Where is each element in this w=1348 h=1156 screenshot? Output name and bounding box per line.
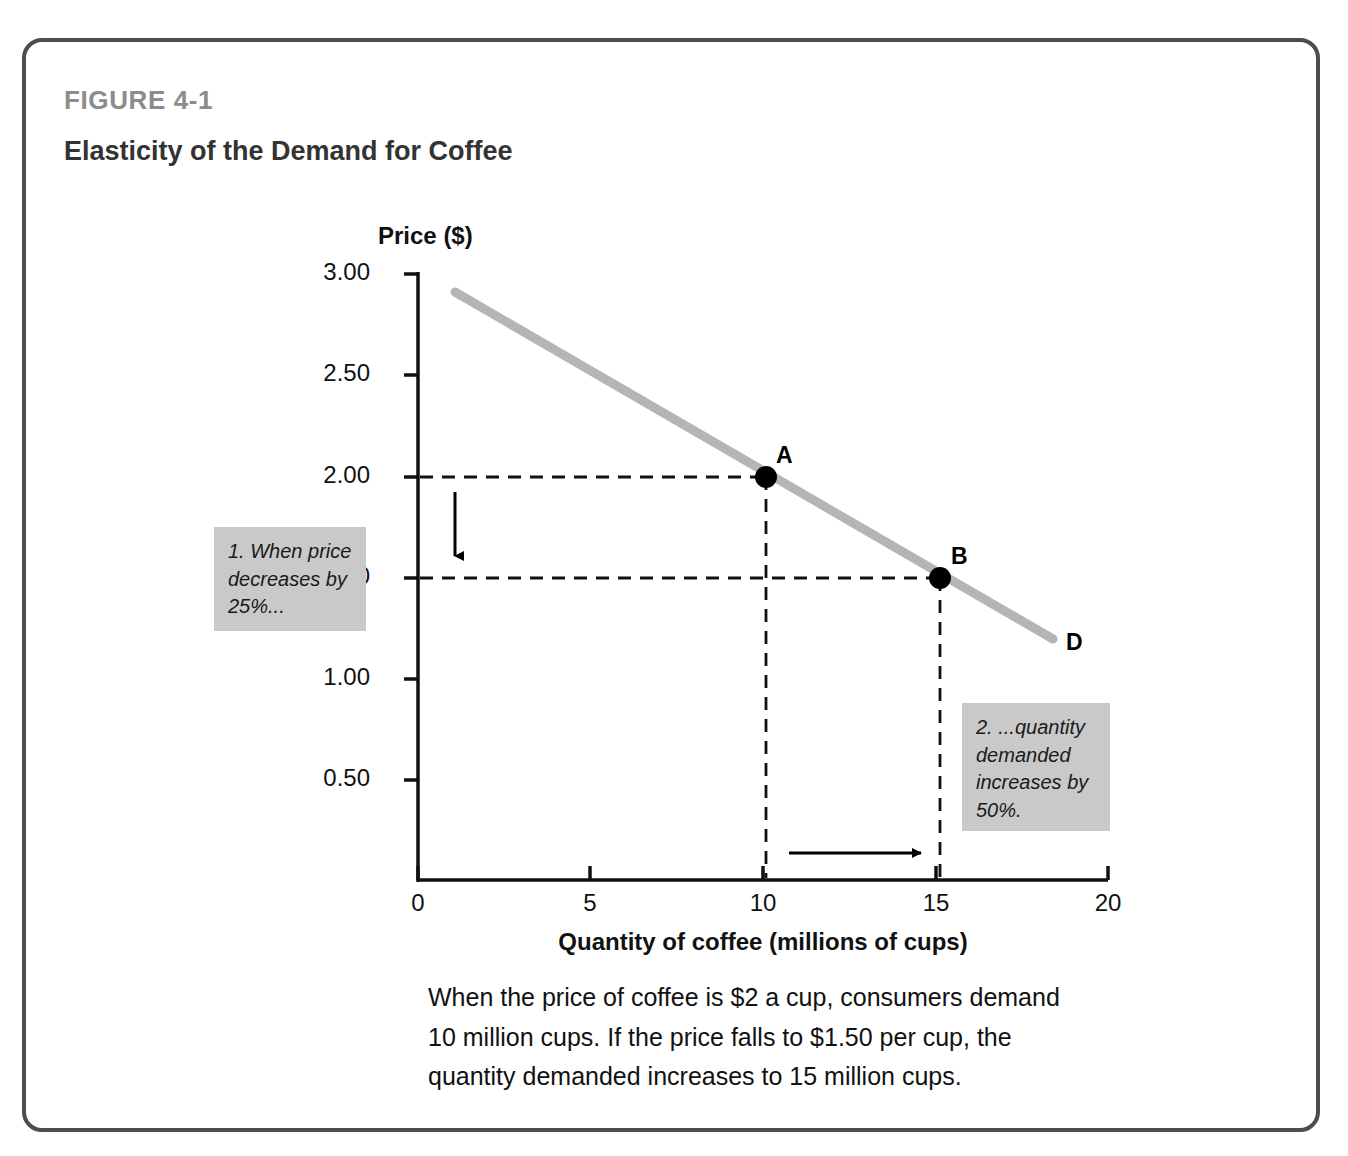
y-tick-label-2-00: 2.00	[284, 461, 370, 489]
y-tick-label-1-00: 1.00	[284, 663, 370, 691]
point-label-a: A	[776, 442, 793, 469]
x-tick-label-20: 20	[1078, 889, 1138, 917]
callout-price-decrease: 1. When price decreases by 25%...	[214, 527, 366, 631]
y-tick-label-0-50: 0.50	[284, 764, 370, 792]
demand-curve-label: D	[1066, 629, 1083, 656]
figure-number: FIGURE 4-1	[64, 85, 213, 116]
y-tick-label-3-00: 3.00	[284, 258, 370, 286]
figure-caption: When the price of coffee is $2 a cup, co…	[428, 978, 1088, 1097]
figure-page: FIGURE 4-1 Elasticity of the Demand for …	[0, 0, 1348, 1156]
x-axis-title: Quantity of coffee (millions of cups)	[418, 928, 1108, 956]
x-tick-label-5: 5	[560, 889, 620, 917]
figure-title: Elasticity of the Demand for Coffee	[64, 136, 513, 167]
y-tick-label-2-50: 2.50	[284, 359, 370, 387]
x-tick-label-0: 0	[388, 889, 448, 917]
point-label-b: B	[951, 543, 968, 570]
y-axis-title: Price ($)	[378, 222, 473, 250]
callout-quantity-increase: 2. ...quantity demanded increases by 50%…	[962, 703, 1110, 831]
x-tick-label-15: 15	[906, 889, 966, 917]
x-tick-label-10: 10	[733, 889, 793, 917]
